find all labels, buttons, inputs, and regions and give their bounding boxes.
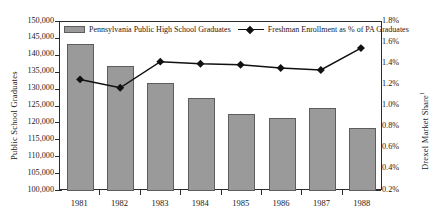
x-axis-ticks [59, 190, 382, 196]
line-marker-1986 [277, 64, 285, 72]
y-axis-right-tick-label: 0.6% [382, 143, 399, 151]
y-axis-right-tick-label: 0.2% [382, 186, 399, 194]
legend-item-line: Freshman Enrollment as % of PA Graduates [238, 25, 409, 34]
plot-area [59, 21, 382, 190]
x-axis-tick-mark [140, 190, 141, 195]
y-axis-left-tick-label: 135,000 [27, 67, 54, 75]
y-axis-right-tick-label: 1.4% [382, 59, 399, 67]
chart-container: Public School Graduates Drexel Market Sh… [0, 0, 431, 218]
x-axis-tick-mark [261, 190, 262, 195]
x-axis-label-1983: 1983 [151, 198, 168, 208]
line-diamond-swatch-icon [238, 26, 264, 34]
y-axis-right-tick-label: 1.0% [382, 101, 399, 109]
x-axis-label-1985: 1985 [232, 198, 249, 208]
y-axis-left-tick-label: 140,000 [27, 50, 54, 58]
x-axis-tick-mark [221, 190, 222, 195]
y-axis-left-tick-label: 145,000 [27, 33, 54, 41]
line-marker-1988 [357, 44, 365, 52]
line-marker-1981 [76, 75, 84, 83]
x-axis-labels: 19811982198319841985198619871988 [59, 198, 382, 212]
bar-swatch-icon [64, 26, 85, 33]
y-axis-left-tick-label: 105,000 [27, 169, 54, 177]
x-axis-label-1988: 1988 [353, 198, 370, 208]
y-axis-left-tick-label: 120,000 [27, 118, 54, 126]
line-series-layer [60, 22, 381, 189]
x-axis-tick-mark [301, 190, 302, 195]
y-axis-left-tick-label: 125,000 [27, 101, 54, 109]
line-marker-1987 [317, 66, 325, 74]
line-marker-1983 [156, 58, 164, 66]
legend-label-line: Freshman Enrollment as % of PA Graduates [268, 25, 409, 34]
line-marker-1984 [196, 60, 204, 68]
x-axis-label-1986: 1986 [273, 198, 290, 208]
y-axis-left-ticks: 100,000105,000110,000115,000120,000125,0… [14, 21, 54, 190]
y-axis-left-tick-label: 115,000 [28, 135, 54, 143]
y-axis-right-tick-label: 0.8% [382, 122, 399, 130]
x-axis-tick-mark [99, 190, 100, 195]
line-path [80, 48, 361, 88]
y-axis-left-tick-label: 110,000 [28, 152, 54, 160]
legend-label-bars: Pennsylvania Public High School Graduate… [89, 25, 231, 34]
y-axis-right-tick-label: 0.4% [382, 164, 399, 172]
x-axis-label-1984: 1984 [192, 198, 209, 208]
x-axis-label-1987: 1987 [313, 198, 330, 208]
legend-item-bars: Pennsylvania Public High School Graduate… [64, 25, 231, 34]
x-axis-tick-mark [342, 190, 343, 195]
line-marker-1985 [237, 61, 245, 69]
y-axis-right-tick-label: 1.6% [382, 38, 399, 46]
y-axis-right-tick-label: 1.2% [382, 80, 399, 88]
line-marker-1982 [116, 84, 124, 92]
x-axis-tick-mark [180, 190, 181, 195]
chart-legend: Pennsylvania Public High School Graduate… [60, 22, 409, 37]
x-axis-label-1981: 1981 [71, 198, 88, 208]
y-axis-left-tick-label: 100,000 [27, 186, 54, 194]
y-axis-left-tick-label: 130,000 [27, 84, 54, 92]
y-axis-left-tick-label: 150,000 [27, 17, 54, 25]
y-axis-right-ticks: 0.2%0.4%0.6%0.8%1.0%1.2%1.4%1.6%1.8% [382, 21, 424, 190]
x-axis-label-1982: 1982 [111, 198, 128, 208]
